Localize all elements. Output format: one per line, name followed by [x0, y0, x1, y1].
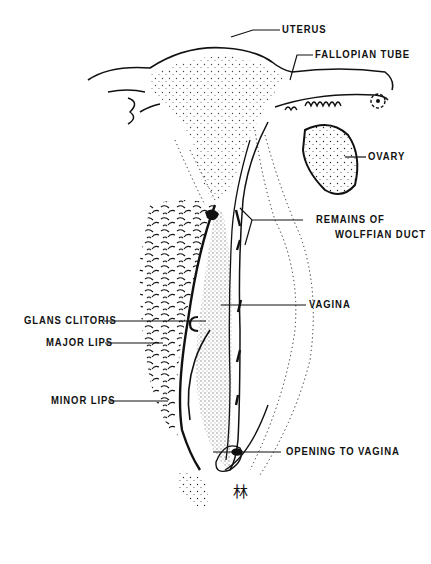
label-uterus: UTERUS: [282, 24, 326, 35]
fallopian-tube-drawing: [275, 94, 388, 110]
label-ovary: OVARY: [368, 151, 405, 162]
label-glans-clitoris: GLANS CLITORIS: [24, 315, 117, 326]
anatomy-diagram: 林: [0, 0, 431, 564]
ligament-dotted-outline: [175, 130, 313, 475]
label-minor-lips: MINOR LIPS: [51, 395, 115, 406]
artist-signature: 林: [233, 483, 248, 501]
label-major-lips: MAJOR LIPS: [46, 337, 113, 348]
label-opening-to-vagina: OPENING TO VAGINA: [286, 446, 400, 457]
label-fallopian-tube: FALLOPIAN TUBE: [315, 49, 410, 60]
ovary-drawing: [303, 125, 357, 194]
label-wolffian-duct: WOLFFIAN DUCT: [335, 229, 426, 240]
label-remains-of: REMAINS OF: [316, 214, 385, 225]
label-vagina: VAGINA: [309, 299, 351, 310]
